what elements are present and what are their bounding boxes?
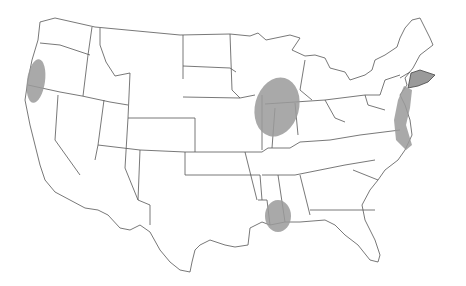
highlight-new-england [408, 70, 435, 88]
us-outline [25, 18, 433, 272]
highlight-louisiana [265, 200, 291, 232]
us-map [0, 0, 466, 286]
